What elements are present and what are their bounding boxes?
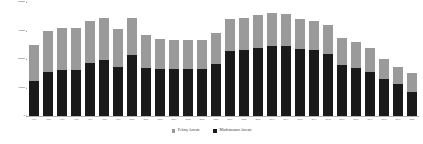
x-axis-tick-label: 2011 [279,117,292,125]
legend-item: Felony Arrests [172,129,200,133]
x-axis-tick-label: 1999 [111,117,124,125]
bar-column [265,2,278,116]
bar-segment-misdemeanor [351,68,361,116]
bar-segment-misdemeanor [85,63,95,116]
x-axis-tick-label: 2007 [223,117,236,125]
bar-segment-felony [141,35,151,67]
bar-segment-misdemeanor [183,69,193,116]
bar-column [27,2,40,116]
bar-segment-felony [267,13,277,46]
bar-segment-misdemeanor [71,70,81,116]
bar-column [363,2,376,116]
bar-stack [323,2,333,116]
bar-column [377,2,390,116]
bar-stack [407,2,417,116]
bar-column [321,2,334,116]
plot-area [27,2,419,116]
bar-stack [351,2,361,116]
bar-segment-misdemeanor [379,79,389,116]
bar-stack [225,2,235,116]
bar-column [293,2,306,116]
x-axis-tick-label: 2019 [391,117,404,125]
bar-stack [29,2,39,116]
bar-stack [239,2,249,116]
bar-stack [365,2,375,116]
bar-segment-misdemeanor [407,92,417,116]
bar-column [307,2,320,116]
bar-stack [127,2,137,116]
legend-swatch-icon [172,129,176,133]
bar-segment-felony [407,73,417,92]
bar-column [237,2,250,116]
bar-stack [71,2,81,116]
bar-segment-felony [85,21,95,63]
bar-segment-felony [183,40,193,69]
bar-stack [43,2,53,116]
bar-segment-felony [351,42,361,68]
bar-column [391,2,404,116]
bar-stack [253,2,263,116]
x-axis-tick-label: 2017 [363,117,376,125]
x-axis-tick-label: 2001 [139,117,152,125]
bar-segment-misdemeanor [267,46,277,116]
legend-swatch-icon [213,129,217,133]
x-axis-tick-label: 2015 [335,117,348,125]
y-axis-tick-label: 30000 [18,29,25,32]
x-axis-tick-label: 2002 [153,117,166,125]
bar-segment-felony [169,40,179,69]
bar-segment-misdemeanor [323,54,333,116]
bar-stack [309,2,319,116]
bar-segment-felony [155,39,165,69]
bar-segment-misdemeanor [365,72,375,116]
bar-column [223,2,236,116]
bar-segment-felony [337,38,347,65]
y-axis-tick-label: 40000 [18,1,25,4]
bar-segment-misdemeanor [141,68,151,116]
bar-stack [211,2,221,116]
x-axis-tick-label: 1997 [83,117,96,125]
x-axis-tick-label: 1995 [55,117,68,125]
bar-stack [295,2,305,116]
x-axis-tick-label: 1993 [27,117,40,125]
y-axis-tick-label: 20000 [18,58,25,61]
x-axis-tick-label: 2020 [405,117,418,125]
bar-column [97,2,110,116]
y-axis-tick-label: 10000 [18,86,25,89]
x-axis-tick-label: 2006 [209,117,222,125]
bar-segment-misdemeanor [393,84,403,116]
bar-stack [113,2,123,116]
bar-segment-felony [71,28,81,70]
bar-segment-misdemeanor [211,64,221,116]
x-axis-tick-label: 2000 [125,117,138,125]
bar-segment-felony [113,29,123,67]
bar-segment-felony [127,18,137,55]
bar-segment-felony [281,14,291,46]
bar-column [153,2,166,116]
bar-segment-misdemeanor [57,70,67,116]
bar-column [83,2,96,116]
bar-segment-misdemeanor [113,67,123,116]
x-axis-tick-label: 2008 [237,117,250,125]
bar-segment-misdemeanor [281,46,291,116]
legend-label: Felony Arrests [178,129,200,133]
bar-stack [85,2,95,116]
x-axis-tick-label: 1998 [97,117,110,125]
bar-segment-felony [57,28,67,70]
bars-layer [27,2,419,116]
bar-segment-felony [253,15,263,48]
chart-legend: Felony ArrestsMisdemeanor Arrests [0,129,423,133]
bar-segment-felony [323,25,333,54]
bar-segment-misdemeanor [239,50,249,116]
bar-stack [337,2,347,116]
x-axis-tick-label: 1996 [69,117,82,125]
x-axis: 1993199419951996199719981999200020012002… [27,117,419,125]
x-axis-tick-label: 2018 [377,117,390,125]
bar-column [55,2,68,116]
bar-column [167,2,180,116]
legend-item: Misdemeanor Arrests [213,129,251,133]
bar-column [41,2,54,116]
bar-segment-misdemeanor [127,55,137,116]
x-axis-tick-label: 2010 [265,117,278,125]
bar-column [279,2,292,116]
legend-label: Misdemeanor Arrests [220,129,252,133]
